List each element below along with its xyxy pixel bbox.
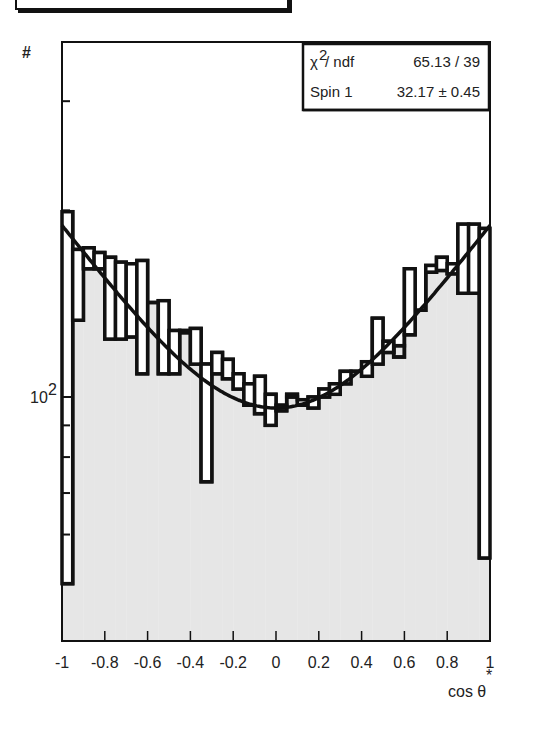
x-axis-label: cos θ * xyxy=(448,667,492,700)
x-tick-label: 0.4 xyxy=(350,654,372,671)
x-tick-label: 0.8 xyxy=(436,654,458,671)
filled-bar xyxy=(105,339,116,641)
filled-bar xyxy=(362,376,373,641)
filled-bar xyxy=(233,389,244,641)
x-tick-label: -0.8 xyxy=(91,654,119,671)
filled-bar xyxy=(426,272,437,641)
filled-bar xyxy=(383,352,394,641)
filled-bar xyxy=(116,339,127,641)
filled-bar xyxy=(447,274,458,641)
filled-bar xyxy=(415,310,426,641)
y-axis-label: # xyxy=(22,44,31,61)
y-tick-label-exponent: 2 xyxy=(48,381,57,398)
filled-bar xyxy=(479,558,490,641)
filled-bar xyxy=(276,411,287,641)
x-tick-label: -1 xyxy=(55,654,69,671)
filled-bar xyxy=(372,364,383,641)
filled-bar xyxy=(223,379,234,641)
filled-bar xyxy=(437,270,448,641)
svg-text:cos θ: cos θ xyxy=(448,683,486,700)
histogram-chart: 102 -1-0.8-0.6-0.4-0.200.20.40.60.81 # c… xyxy=(0,0,536,731)
svg-text:*: * xyxy=(486,667,492,684)
filled-bar xyxy=(265,425,276,641)
x-tick-label: 0.6 xyxy=(393,654,415,671)
filled-bar xyxy=(308,408,319,641)
filled-bar xyxy=(394,346,405,641)
filled-bar xyxy=(83,269,94,641)
filled-bar xyxy=(169,374,180,641)
svg-text:32.17 ± 0.45: 32.17 ± 0.45 xyxy=(397,83,480,100)
outline-bar xyxy=(479,228,490,558)
filled-bar xyxy=(244,405,255,641)
svg-text:/ ndf: / ndf xyxy=(325,53,355,70)
filled-bar xyxy=(126,337,137,641)
filled-bar xyxy=(340,384,351,641)
y-tick-label: 10 xyxy=(30,389,48,406)
x-tick-label: 0 xyxy=(272,654,281,671)
x-tick-label: -0.2 xyxy=(219,654,247,671)
filled-bar xyxy=(351,371,362,641)
filled-bar xyxy=(297,405,308,641)
outline-bar xyxy=(287,394,298,397)
stats-box: χ 2 / ndf 65.13 / 39 Spin 1 32.17 ± 0.45 xyxy=(303,44,489,110)
x-tick-label: -0.6 xyxy=(134,654,162,671)
x-tick-label: 0.2 xyxy=(308,654,330,671)
svg-text:χ: χ xyxy=(310,53,318,70)
filled-bar xyxy=(404,335,415,641)
filled-bar xyxy=(201,482,212,641)
outline-bar xyxy=(190,328,201,364)
filled-bar xyxy=(137,374,148,641)
filled-bar xyxy=(458,293,469,641)
filled-bar xyxy=(287,394,298,641)
filled-bar xyxy=(330,394,341,641)
filled-bar xyxy=(62,584,73,641)
filled-bar xyxy=(158,374,169,641)
x-tick-label: -0.4 xyxy=(177,654,205,671)
svg-text:Spin 1: Spin 1 xyxy=(310,83,353,100)
filled-bar xyxy=(180,331,191,641)
filled-bar xyxy=(255,414,266,641)
svg-text:65.13 / 39: 65.13 / 39 xyxy=(413,53,480,70)
filled-bar xyxy=(319,397,330,641)
